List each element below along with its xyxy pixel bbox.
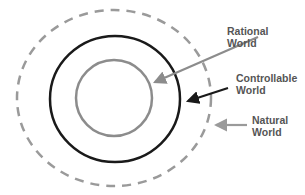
controllable-world-label-line1: Controllable: [236, 72, 297, 84]
rational-world-label-line1: Rational: [227, 25, 268, 37]
controllable-world-circle: [50, 36, 180, 162]
natural-world-label-line2: World: [252, 126, 288, 138]
natural-world-label-line1: Natural: [252, 114, 288, 126]
controllable-world-label: Controllable World: [236, 72, 297, 96]
rational-world-label: Rational World: [227, 25, 268, 49]
rational-world-circle: [76, 60, 152, 136]
controllable-world-label-line2: World: [236, 84, 297, 96]
rational-world-label-line2: World: [227, 37, 268, 49]
controllable-world-arrow: [188, 88, 228, 101]
natural-world-label: Natural World: [252, 114, 288, 138]
